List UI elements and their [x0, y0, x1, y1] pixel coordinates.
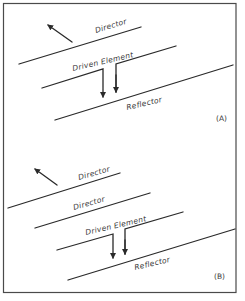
- reflector-label: Reflector: [133, 255, 171, 272]
- yagi-antenna-diagram: Director Driven Element Reflector (A) Di…: [0, 0, 245, 301]
- driven-element-left: [57, 234, 113, 258]
- panel-b: Director Director Driven Element Reflect…: [8, 164, 235, 281]
- reflector-element: [55, 65, 233, 120]
- panel-a: Director Driven Element Reflector (A): [19, 17, 233, 123]
- reflector-label: Reflector: [125, 95, 163, 112]
- director-label-2: Director: [72, 194, 106, 212]
- driven-element-left: [42, 69, 103, 97]
- panel-a-label: (A): [216, 114, 227, 123]
- direction-arrow-icon: [35, 169, 57, 185]
- diagram-frame: [4, 4, 237, 293]
- director-label-1: Director: [77, 164, 111, 182]
- panel-b-label: (B): [214, 272, 225, 281]
- reflector-element: [68, 229, 235, 280]
- direction-arrow-icon: [48, 25, 72, 42]
